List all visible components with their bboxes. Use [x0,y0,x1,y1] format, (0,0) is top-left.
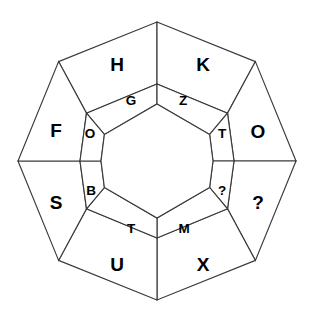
inner-label-right-lower: ? [218,183,226,198]
outer-label-bottom-left: U [110,254,124,275]
outer-label-right-upper: O [251,121,266,142]
puzzle-figure: H K O ? X U S F G Z T ? M T B O [0,0,311,319]
outer-label-left-upper: F [50,120,62,141]
inner-label-right-upper: T [218,126,227,141]
outer-label-bottom-right: X [197,254,210,275]
outer-label-top-right: K [196,54,210,75]
inner-label-bottom-right: M [178,221,189,236]
octagon-puzzle-svg: H K O ? X U S F G Z T ? M T B O [0,0,311,319]
outer-label-right-lower: ? [252,192,264,213]
outer-label-top-left: H [110,54,124,75]
inner-label-bottom-left: T [127,221,136,236]
inner-label-left-lower: B [86,183,96,198]
outer-label-left-lower: S [50,192,63,213]
inner-label-top-left: G [126,93,137,108]
inner-label-top-right: Z [179,93,187,108]
inner-label-left-upper: O [85,126,96,141]
